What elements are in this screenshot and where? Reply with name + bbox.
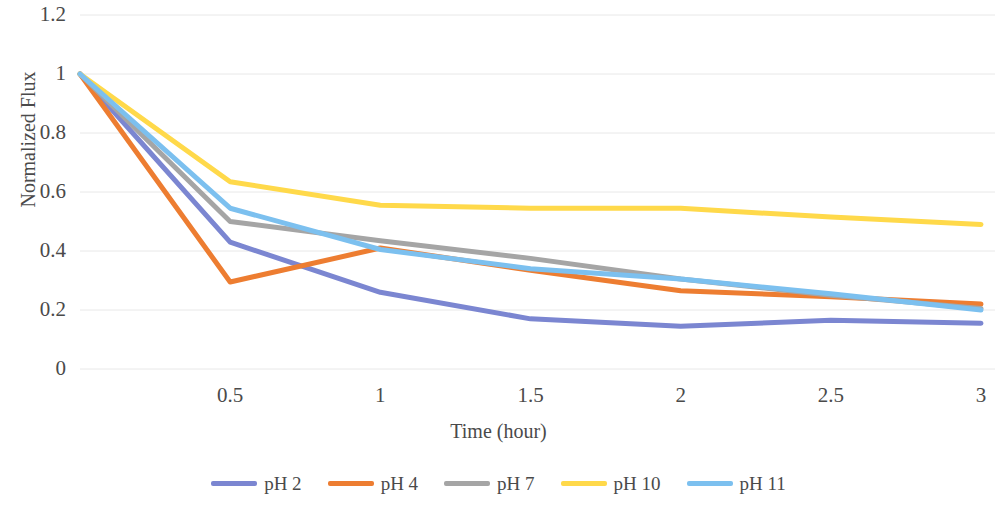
- x-axis-tick-label: 1.5: [517, 385, 543, 406]
- x-axis-tick-label: 3: [976, 385, 987, 406]
- series-line-ph-2: [80, 74, 981, 326]
- line-chart: 00.20.40.60.811.2 Normalized Flux 0.511.…: [0, 0, 997, 506]
- x-axis-title: Time (hour): [0, 420, 997, 443]
- series-line-group: [80, 74, 981, 326]
- series-line-ph-10: [80, 74, 981, 224]
- legend-item-ph-4[interactable]: pH 4: [328, 474, 418, 493]
- legend-label: pH 11: [740, 474, 786, 493]
- legend-color-swatch: [687, 481, 733, 486]
- legend-item-ph-7[interactable]: pH 7: [444, 474, 534, 493]
- gridline-group: [80, 15, 995, 369]
- x-axis-tick-label: 2.5: [818, 385, 844, 406]
- legend-color-swatch: [561, 481, 607, 486]
- legend-color-swatch: [328, 481, 374, 486]
- legend-label: pH 7: [497, 474, 534, 493]
- chart-legend: pH 2pH 4pH 7pH 10pH 11: [0, 474, 997, 493]
- legend-color-swatch: [211, 481, 257, 486]
- series-line-ph-7: [80, 74, 981, 309]
- x-axis-tick-label: 1: [375, 385, 386, 406]
- x-axis-tick-label: 0.5: [217, 385, 243, 406]
- x-axis-tick-group: 0.511.522.53: [0, 385, 997, 415]
- legend-item-ph-10[interactable]: pH 10: [561, 474, 661, 493]
- legend-label: pH 2: [264, 474, 301, 493]
- legend-item-ph-2[interactable]: pH 2: [211, 474, 301, 493]
- legend-label: pH 10: [614, 474, 661, 493]
- legend-label: pH 4: [381, 474, 418, 493]
- legend-item-ph-11[interactable]: pH 11: [687, 474, 786, 493]
- x-axis-tick-label: 2: [675, 385, 686, 406]
- legend-color-swatch: [444, 481, 490, 486]
